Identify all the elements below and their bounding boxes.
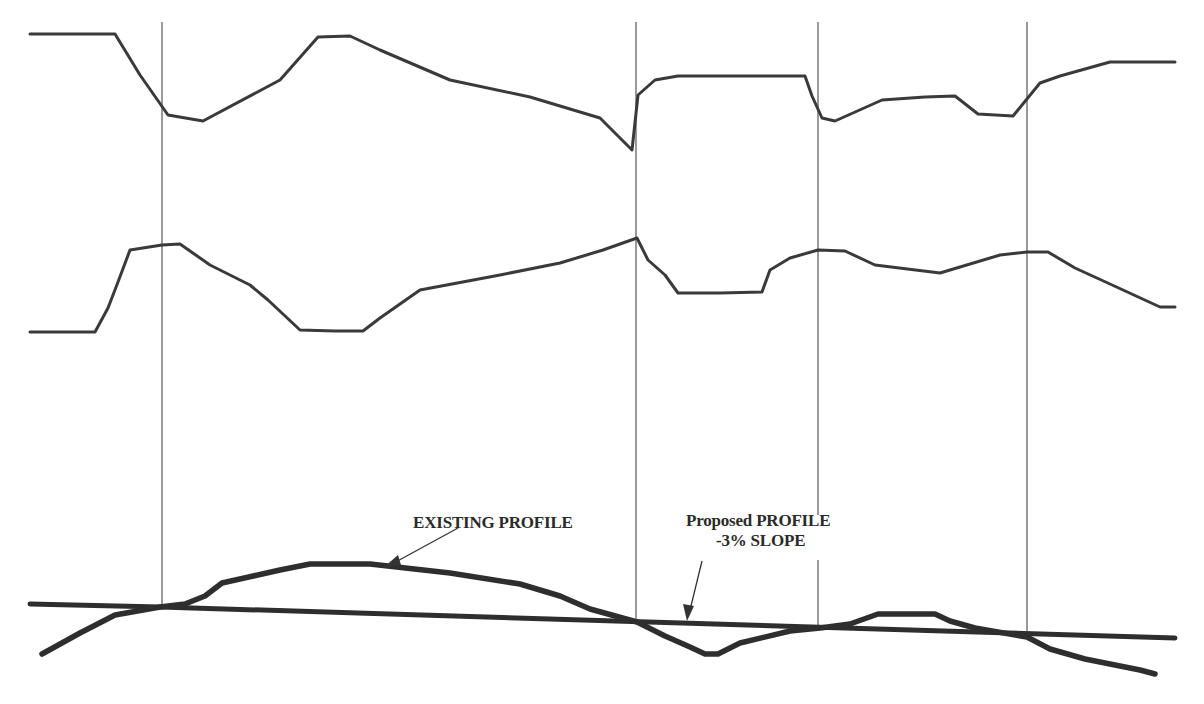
proposed-slope-label: -3% SLOPE <box>716 531 805 551</box>
existing-profile-leader <box>383 528 458 568</box>
existing-profile-label: EXISTING PROFILE <box>413 513 573 533</box>
proposed-leader-line <box>690 561 702 610</box>
profile-diagram-canvas <box>0 0 1204 704</box>
proposed-profile-label: Proposed PROFILE <box>686 511 830 531</box>
plan-upper-edge-line <box>30 34 1175 150</box>
plan-lower-edge-line <box>30 238 1175 332</box>
existing-leader-line <box>392 528 458 564</box>
station-lines <box>162 22 1027 636</box>
arrow-icon <box>683 604 694 621</box>
proposed-profile-leader <box>683 561 702 621</box>
